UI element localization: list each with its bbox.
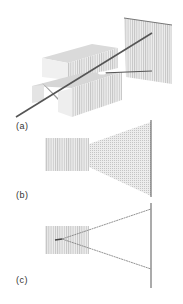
panel-label-a: (a): [16, 121, 29, 131]
source-point: [55, 239, 62, 240]
figure-drawing: [0, 0, 183, 304]
panel-c-diagram: [45, 203, 151, 288]
screen-a: [124, 18, 172, 84]
ray-upper: [62, 209, 151, 239]
diffracted-wave-region: [89, 122, 151, 196]
diffraction-figure: (a) (b) (c): [0, 0, 183, 304]
panel-b-diagram: [45, 120, 151, 197]
incident-wave-region: [45, 138, 89, 171]
incident-wave-region-c: [45, 226, 89, 254]
panel-label-c: (c): [16, 275, 28, 285]
panel-label-b: (b): [16, 190, 29, 200]
panel-a-diagram: [16, 18, 172, 117]
lower-block-face: [58, 88, 72, 117]
